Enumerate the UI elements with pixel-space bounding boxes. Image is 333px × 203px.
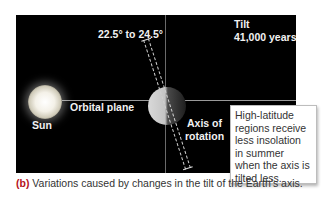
callout-box: High-latitude regions receive less insol… [230, 105, 317, 184]
axis-label-line2: rotation [185, 130, 224, 142]
callout-text: High-latitude regions receive less insol… [235, 109, 310, 184]
figure-caption: (b) Variations caused by changes in the … [16, 177, 326, 190]
sun-label: Sun [32, 119, 52, 131]
orbital-plane-label: Orbital plane [70, 101, 134, 113]
caption-marker: (b) [16, 177, 29, 189]
cycle-title-label: Tilt [234, 18, 250, 30]
cycle-period-label: 41,000 years [234, 31, 296, 43]
tilt-range-label: 22.5° to 24.5° [98, 28, 163, 40]
caption-text: Variations caused by changes in the tilt… [29, 177, 302, 189]
axis-label-line1: Axis of [187, 117, 222, 129]
sun-icon [28, 85, 62, 119]
